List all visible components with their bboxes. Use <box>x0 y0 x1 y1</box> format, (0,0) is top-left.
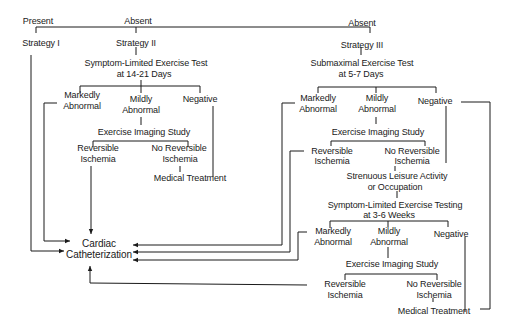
s2-mildly-line1: Mildly <box>130 94 152 104</box>
s2-reversible-line1: Reversible <box>77 143 119 153</box>
s3-b-imaging-study: Exercise Imaging Study <box>346 259 438 269</box>
strategy-2-node: Strategy II <box>116 38 156 48</box>
s3-mildly-line2: Abnormal <box>358 104 396 114</box>
present-label: Present <box>23 16 53 26</box>
s2-markedly-line1: Markedly <box>64 90 100 100</box>
strategy-3-node: Strategy III <box>341 40 383 50</box>
strategy-1-node: Strategy I <box>22 38 60 48</box>
flowchart-canvas: Present Absent Absent Strategy I Strateg… <box>0 0 511 325</box>
s2-no-reversible-line1: No Reversible <box>151 143 206 153</box>
s3-markedly-line2: Abnormal <box>299 104 337 114</box>
s3-test2-line2: at 3-6 Weeks <box>363 210 415 220</box>
s3-b-markedly-line2: Abnormal <box>314 237 352 247</box>
s3-markedly-line1: Markedly <box>300 93 336 103</box>
s3-test2-line1: Symptom-Limited Exercise Testing <box>328 200 463 210</box>
s2-test-line1: Symptom-Limited Exercise Test <box>85 58 208 68</box>
s3-b-reversible-line1: Reversible <box>324 279 366 289</box>
s3-strenuous-line1: Strenuous Leisure Activity <box>347 171 448 181</box>
s3-mildly-line1: Mildly <box>366 93 388 103</box>
s3-b-mildly-line2: Abnormal <box>370 237 408 247</box>
s3-strenuous-line2: or Occupation <box>368 182 423 192</box>
s3-b-negative: Negative <box>434 229 469 239</box>
s3-b-reversible-line2: Ischemia <box>327 290 362 300</box>
s3-test-line1: Submaximal Exercise Test <box>311 58 414 68</box>
s2-negative: Negative <box>183 94 218 104</box>
s3-b-mildly-line1: Mildly <box>378 226 400 236</box>
s3-b-markedly-line1: Markedly <box>315 226 351 236</box>
s2-no-reversible-line2: Ischemia <box>162 154 197 164</box>
s3-negative: Negative <box>418 96 453 106</box>
s3-no-reversible-line1: No Reversible <box>384 146 439 156</box>
connector-lines <box>0 0 511 325</box>
s3-reversible-line1: Reversible <box>311 146 353 156</box>
s2-mildly-line2: Abnormal <box>122 105 160 115</box>
s3-no-reversible-line2: Ischemia <box>394 156 429 166</box>
s3-imaging-study: Exercise Imaging Study <box>332 127 424 137</box>
absent-label-left: Absent <box>124 16 151 26</box>
s2-test-line2: at 14-21 Days <box>117 69 172 79</box>
s2-reversible-line2: Ischemia <box>80 154 115 164</box>
s3-test-line2: at 5-7 Days <box>339 69 384 79</box>
s3-reversible-line2: Ischemia <box>314 156 349 166</box>
s3-b-no-reversible-line1: No Reversible <box>406 279 461 289</box>
cardiac-cath-line1: Cardiac <box>82 238 116 249</box>
cardiac-cath-line2: Catheterization <box>66 249 132 260</box>
s2-markedly-line2: Abnormal <box>63 101 101 111</box>
s3-b-no-reversible-line2: Ischemia <box>416 290 451 300</box>
absent-label-right: Absent <box>348 18 375 28</box>
s2-imaging-study: Exercise Imaging Study <box>98 127 190 137</box>
s3-b-medical-treatment: Medical Treatment <box>398 306 470 316</box>
s2-medical-treatment: Medical Treatment <box>154 173 226 183</box>
